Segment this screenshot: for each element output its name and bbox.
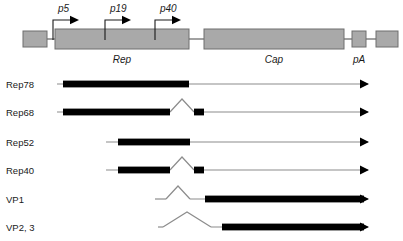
transcript-label-5: VP2, 3 <box>6 222 35 233</box>
transcript-label-2: Rep52 <box>6 137 34 148</box>
transcript-intron-1 <box>170 99 194 112</box>
transcript-orf-0-0 <box>63 81 189 88</box>
transcript-arrowhead-4 <box>360 195 369 204</box>
genome-feature-itr-right <box>376 31 398 47</box>
transcript-label-3: Rep40 <box>6 165 34 176</box>
aav-genome-transcript-figure: RepCappAp5p19p40Rep78Rep68Rep52Rep40VP1V… <box>0 0 403 241</box>
transcript-arrowhead-2 <box>360 138 369 147</box>
genome-feature-label-pa-site: pA <box>352 54 366 65</box>
promoter-label-p5: p5 <box>57 3 70 14</box>
promoter-arrowhead-p19 <box>122 16 131 24</box>
figure-canvas: RepCappAp5p19p40Rep78Rep68Rep52Rep40VP1V… <box>0 0 403 241</box>
transcript-arrowhead-0 <box>360 80 369 89</box>
transcript-orf-5-0 <box>222 224 364 231</box>
transcript-intron-4 <box>166 186 190 199</box>
transcript-orf-3-0 <box>118 167 170 174</box>
transcript-intron-5 <box>163 212 211 227</box>
promoter-label-p19: p19 <box>109 3 127 14</box>
genome-feature-label-rep-orf: Rep <box>113 54 132 65</box>
promoter-arrowhead-p40 <box>172 16 181 24</box>
transcript-arrowhead-3 <box>360 166 369 175</box>
promoter-arrowhead-p5 <box>70 16 79 24</box>
genome-feature-cap-orf <box>204 29 344 49</box>
promoter-label-p40: p40 <box>159 3 177 14</box>
transcript-label-0: Rep78 <box>6 79 34 90</box>
transcript-intron-3 <box>170 157 194 170</box>
genome-feature-label-cap-orf: Cap <box>265 54 284 65</box>
transcript-label-4: VP1 <box>6 194 24 205</box>
transcript-orf-1-0 <box>63 109 170 116</box>
transcript-arrowhead-5 <box>360 223 369 232</box>
transcript-orf-2-0 <box>118 139 190 146</box>
transcript-orf-1-1 <box>194 109 204 116</box>
genome-feature-rep-orf <box>55 29 189 49</box>
transcript-orf-3-1 <box>194 167 204 174</box>
transcript-arrowhead-1 <box>360 108 369 117</box>
genome-feature-pa-site <box>352 31 366 47</box>
transcript-orf-4-0 <box>205 196 364 203</box>
genome-feature-itr-left <box>23 31 47 47</box>
transcript-label-1: Rep68 <box>6 107 34 118</box>
